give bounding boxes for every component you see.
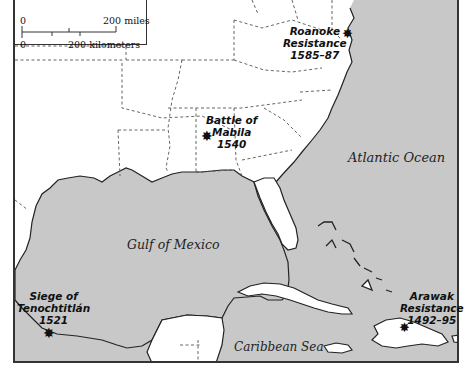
label-mabila: Battle of Mabila 1540 — [206, 114, 257, 150]
jamaica — [324, 343, 352, 353]
scale-ruler — [15, 0, 148, 45]
marker-tenochtitlan[interactable]: ✸ — [43, 326, 55, 340]
label-tenochtitlan: Siege of Tenochtitlán 1521 — [17, 290, 90, 326]
label-caribbean-sea: Caribbean Sea — [234, 340, 324, 354]
label-arawak: Arawak Resistance 1492–95 — [400, 290, 464, 326]
scale-bar: 0 200 miles 0 200 kilometers — [14, 0, 147, 45]
label-gulf-of-mexico: Gulf of Mexico — [127, 237, 220, 252]
label-atlantic-ocean: Atlantic Ocean — [348, 150, 445, 165]
label-roanoke: Roanoke Resistance 1585–87 — [283, 25, 347, 61]
